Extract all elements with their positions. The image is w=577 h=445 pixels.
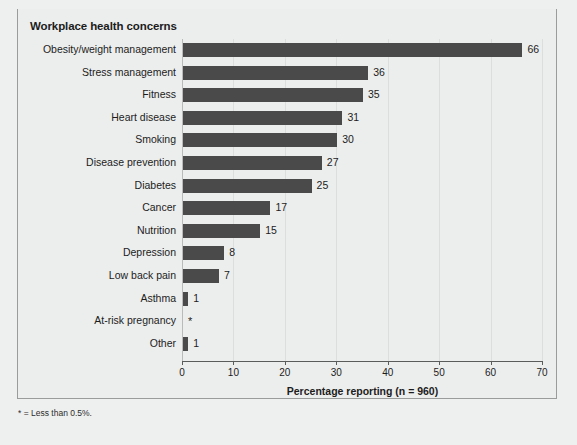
category-label: Fitness: [142, 87, 176, 102]
x-tick-20: [285, 361, 286, 365]
bar: [183, 224, 260, 238]
bar-row: Obesity/weight management66: [182, 43, 542, 57]
bar-row: Other1: [182, 337, 542, 351]
bar-row: Asthma1: [182, 292, 542, 306]
x-tick-label-70: 70: [536, 367, 547, 378]
bar-value-label: 30: [342, 132, 354, 147]
x-tick-label-60: 60: [485, 367, 496, 378]
bar-row: Cancer17: [182, 201, 542, 215]
category-label: Diabetes: [135, 178, 176, 193]
category-label: Smoking: [135, 132, 176, 147]
bar-row: Disease prevention27: [182, 156, 542, 170]
category-label: At-risk pregnancy: [94, 313, 176, 328]
x-tick-30: [336, 361, 337, 365]
bar-value-label: 15: [265, 223, 277, 238]
x-tick-60: [491, 361, 492, 365]
bar-value-label: 66: [527, 42, 539, 57]
x-axis-line: [182, 361, 543, 362]
bar-value-label: 31: [347, 110, 359, 125]
x-tick-10: [233, 361, 234, 365]
bar-value-label: 36: [373, 65, 385, 80]
bar-row: Diabetes25: [182, 179, 542, 193]
category-label: Heart disease: [111, 110, 176, 125]
x-tick-label-50: 50: [434, 367, 445, 378]
x-tick-50: [439, 361, 440, 365]
bar-row: At-risk pregnancy*: [182, 314, 542, 328]
category-label: Nutrition: [137, 223, 176, 238]
x-axis-title: Percentage reporting (n = 960): [182, 385, 543, 397]
plot-area: Obesity/weight management66Stress manage…: [182, 39, 542, 361]
footnote: * = Less than 0.5%.: [18, 408, 92, 418]
bar-row: Low back pain7: [182, 269, 542, 283]
category-label: Low back pain: [109, 268, 176, 283]
bar-row: Nutrition15: [182, 224, 542, 238]
bar: [183, 246, 224, 260]
chart-panel: Workplace health concerns Obesity/weight…: [17, 9, 557, 399]
bar-row: Stress management36: [182, 66, 542, 80]
bar-value-label: 1: [193, 291, 199, 306]
category-label: Cancer: [142, 200, 176, 215]
bar: [183, 66, 368, 80]
bar: [183, 292, 188, 306]
bar-value-label: 35: [368, 87, 380, 102]
bar-value-label: 7: [224, 268, 230, 283]
category-label: Asthma: [140, 291, 176, 306]
bar-value-label: 25: [317, 178, 329, 193]
bar-row: Smoking30: [182, 133, 542, 147]
bar-value-label: 8: [229, 245, 235, 260]
bar-row: Fitness35: [182, 88, 542, 102]
x-tick-label-40: 40: [382, 367, 393, 378]
bar-value-label: *: [188, 313, 192, 330]
x-tick-label-20: 20: [279, 367, 290, 378]
category-label: Depression: [123, 245, 176, 260]
bar: [183, 43, 522, 57]
category-label: Stress management: [82, 65, 176, 80]
bar-value-label: 17: [275, 200, 287, 215]
bar: [183, 156, 322, 170]
bar: [183, 269, 219, 283]
category-label: Obesity/weight management: [43, 42, 176, 57]
bar: [183, 337, 188, 351]
x-tick-0: [182, 361, 183, 365]
bar-value-label: 1: [193, 336, 199, 351]
category-label: Disease prevention: [86, 155, 176, 170]
bar: [183, 133, 337, 147]
x-tick-70: [542, 361, 543, 365]
bar: [183, 111, 342, 125]
bar: [183, 88, 363, 102]
bar-row: Depression8: [182, 246, 542, 260]
category-label: Other: [150, 336, 176, 351]
figure-page: Workplace health concerns Obesity/weight…: [0, 0, 577, 445]
bar-row: Heart disease31: [182, 111, 542, 125]
x-tick-40: [388, 361, 389, 365]
x-tick-label-0: 0: [179, 367, 185, 378]
bar-value-label: 27: [327, 155, 339, 170]
x-tick-label-30: 30: [331, 367, 342, 378]
x-tick-label-10: 10: [228, 367, 239, 378]
bar: [183, 201, 270, 215]
chart-title: Workplace health concerns: [30, 20, 177, 32]
bar: [183, 179, 312, 193]
gridline-70: [542, 39, 543, 361]
